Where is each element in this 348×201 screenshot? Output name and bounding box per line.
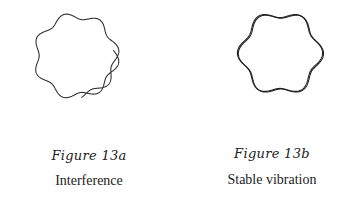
figure-caption: Interference — [2, 173, 176, 189]
figure-label: Figure 13b — [185, 146, 348, 161]
figure-caption: Stable vibration — [185, 172, 348, 188]
interference-wave-ring-icon — [0, 0, 174, 150]
stable-wave-ring-icon — [174, 0, 348, 150]
figure-label: Figure 13a — [2, 148, 176, 163]
figure-13b: Figure 13b Stable vibration — [174, 0, 348, 201]
figure-13a: Figure 13a Interference — [0, 0, 174, 201]
